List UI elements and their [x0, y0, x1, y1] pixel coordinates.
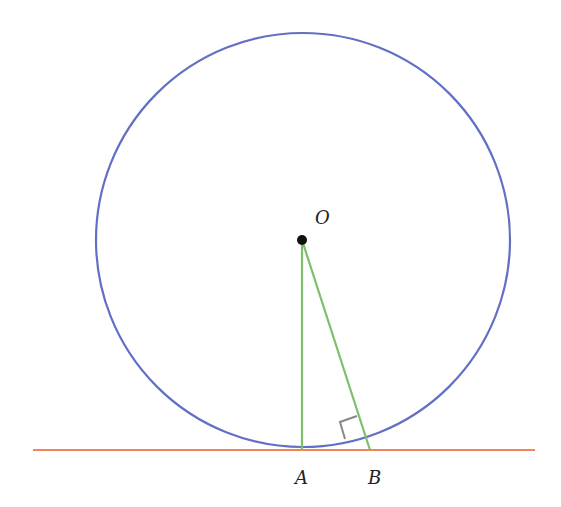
label-A: A [293, 467, 308, 488]
center-point-O [297, 235, 307, 245]
right-angle-mark [340, 416, 357, 439]
segment-OB [302, 240, 370, 450]
label-B: B [367, 467, 381, 488]
label-O: O [315, 207, 330, 228]
tangent-diagram: O A B [0, 0, 561, 507]
